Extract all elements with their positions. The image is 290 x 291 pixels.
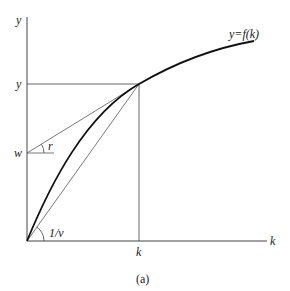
angle-label-r: r [48,139,53,153]
production-function-diagram: y y w r 1/v k k y=f(k) (a) [0,0,290,291]
angle-label-inv-v: 1/v [49,226,64,240]
production-curve [27,41,254,241]
k-level-label: k [136,245,142,259]
y-level-label: y [15,77,22,91]
curve-label: y=f(k) [228,27,259,41]
angle-arc-inv-v [37,227,44,241]
x-axis-label: k [270,234,276,248]
figure-caption: (a) [136,272,149,286]
angle-arc-r [42,144,45,153]
y-axis-label: y [15,13,22,27]
ray-line-inv-v [27,84,139,241]
w-level-label: w [14,146,22,160]
